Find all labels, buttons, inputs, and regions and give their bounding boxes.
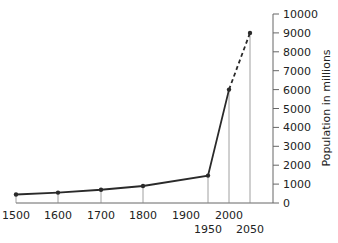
y-tick-label: 2000 xyxy=(283,159,311,172)
x-tick-label: 1900 xyxy=(172,209,200,222)
x-tick-label: 1950 xyxy=(194,223,222,236)
x-tick-label: 2050 xyxy=(236,223,264,236)
data-point-marker xyxy=(56,190,60,194)
y-tick-label: 1000 xyxy=(283,178,311,191)
projected-line xyxy=(229,33,250,90)
x-tick-label: 1500 xyxy=(2,209,30,222)
x-tick-label: 1600 xyxy=(44,209,72,222)
y-tick-label: 5000 xyxy=(283,103,311,116)
y-tick-label: 4000 xyxy=(283,121,311,134)
y-tick-label: 3000 xyxy=(283,140,311,153)
y-tick-label: 6000 xyxy=(283,84,311,97)
data-point-marker xyxy=(206,173,210,177)
population-line-chart: 0100020003000400050006000700080009000100… xyxy=(0,0,338,243)
x-tick-label: 2000 xyxy=(215,209,243,222)
y-tick-label: 8000 xyxy=(283,46,311,59)
data-point-marker xyxy=(99,188,103,192)
y-tick-label: 9000 xyxy=(283,27,311,40)
y-tick-label: 7000 xyxy=(283,65,311,78)
data-point-marker xyxy=(141,184,145,188)
x-tick-label: 1800 xyxy=(129,209,157,222)
y-tick-label: 0 xyxy=(283,197,290,210)
data-point-marker xyxy=(248,31,252,35)
x-tick-label: 1700 xyxy=(87,209,115,222)
population-line xyxy=(16,90,229,195)
data-point-marker xyxy=(14,192,18,196)
y-tick-label: 10000 xyxy=(283,8,318,21)
y-axis-title: Population in millions xyxy=(320,49,333,166)
data-point-marker xyxy=(227,87,231,91)
